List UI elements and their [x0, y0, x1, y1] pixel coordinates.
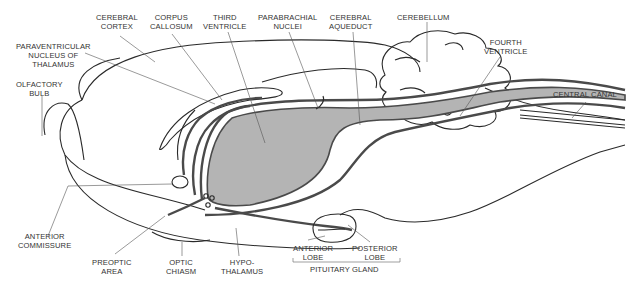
label-pituitary-gland: PITUITARY GLAND — [310, 265, 379, 274]
label-paraventricular-nucleus: PARAVENTRICULAR NUCLEUS OF THALAMUS — [16, 42, 91, 69]
label-anterior-commissure: ANTERIOR COMMISSURE — [18, 232, 71, 250]
cerebellum-fold-3 — [400, 88, 425, 93]
label-posterior-lobe: POSTERIOR LOBE — [352, 244, 398, 262]
brainstem-ventral-outline — [340, 145, 625, 222]
label-optic-chiasm: OPTIC CHIASM — [166, 258, 196, 276]
leader-anterior-commissure — [48, 184, 172, 236]
label-olfactory-bulb: OLFACTORY BULB — [16, 80, 63, 98]
nucleus-dot — [206, 203, 210, 207]
label-parabrachial-nuclei: PARABRACHIAL NUCLEI — [258, 13, 317, 31]
leader-posterior-lobe — [348, 225, 370, 242]
pituitary-division — [318, 229, 345, 230]
leader-parabrachial — [289, 32, 318, 108]
leader-fourth-ventricle — [460, 57, 500, 116]
label-anterior-lobe: ANTERIOR LOBE — [293, 244, 333, 262]
label-fourth-ventricle: FOURTH VENTRICLE — [484, 38, 528, 56]
midbrain-outline — [262, 69, 377, 89]
label-corpus-callosum: CORPUS CALLOSUM — [150, 13, 193, 31]
third-ventricle — [207, 87, 625, 205]
label-third-ventricle: THIRD VENTRICLE — [203, 13, 247, 31]
anterior-commissure — [172, 176, 188, 188]
leader-anterior-lobe — [308, 236, 325, 240]
cerebellum-fold-2 — [445, 43, 463, 50]
label-cerebral-aqueduct: CEREBRAL AQUEDUCT — [329, 13, 372, 31]
leader-paraventricular — [85, 53, 215, 104]
label-hypothalamus: HYPO- THALAMUS — [221, 258, 263, 276]
cerebral-hemisphere-outline — [82, 40, 420, 100]
central-canal-line-1 — [520, 110, 625, 120]
infundibulum — [215, 208, 352, 230]
leader-cerebral-cortex — [120, 36, 155, 62]
olfactory-tract — [44, 103, 84, 160]
leader-hypothalamus — [236, 228, 239, 256]
fornix-arc-inner — [177, 110, 195, 160]
label-cerebral-cortex: CEREBRAL CORTEX — [96, 13, 138, 31]
label-cerebellum: CEREBELLUM — [397, 13, 449, 22]
label-central-canal: CENTRAL CANAL — [553, 90, 617, 99]
label-preoptic-area: PREOPTIC AREA — [92, 258, 132, 276]
